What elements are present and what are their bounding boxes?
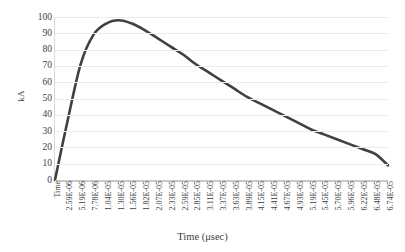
x-axis-title: Time (μsec) xyxy=(0,231,405,242)
gridline xyxy=(55,99,388,100)
x-axis-tick-label: 1.56E-05 xyxy=(129,181,139,229)
y-axis-tick-label: 40 xyxy=(24,110,52,120)
gridline xyxy=(55,50,388,51)
chart-container: kA 1009080706050403020100 Time2.59E-065.… xyxy=(0,0,405,252)
x-axis-tick-label: 4.41E-05 xyxy=(270,181,280,229)
y-axis-tick-label: 30 xyxy=(24,127,52,137)
gridline xyxy=(55,17,388,18)
y-axis-tick-label: 80 xyxy=(24,45,52,55)
gridline xyxy=(55,147,388,148)
x-axis-tick-label: 3.89E-05 xyxy=(245,181,255,229)
gridline xyxy=(55,131,388,132)
x-axis-tick-label: 7.78E-06 xyxy=(91,181,101,229)
y-axis-tick-label: 20 xyxy=(24,143,52,153)
x-axis-tick-label: 3.37E-05 xyxy=(219,181,229,229)
x-axis-tick-label: 5.19E-05 xyxy=(309,181,319,229)
y-axis-tick-label: 60 xyxy=(24,78,52,88)
x-axis-tick-label: 1.30E-05 xyxy=(117,181,127,229)
series-path xyxy=(55,20,388,180)
gridline xyxy=(55,33,388,34)
x-axis-tick-label: 3.11E-05 xyxy=(206,181,216,229)
x-axis-tick-label: 1.04E-05 xyxy=(104,181,114,229)
gridline xyxy=(55,82,388,83)
x-axis-tick-labels: Time2.59E-065.19E-067.78E-061.04E-051.30… xyxy=(0,181,405,229)
x-axis-tick-label: 4.93E-05 xyxy=(296,181,306,229)
plot-area xyxy=(55,17,388,180)
y-axis-tick-label: 90 xyxy=(24,29,52,39)
y-axis-tick-label: 100 xyxy=(24,13,52,23)
x-axis-tick-label: 1.82E-05 xyxy=(142,181,152,229)
x-axis-tick-label: 5.70E-05 xyxy=(334,181,344,229)
x-axis-tick-label: 5.96E-05 xyxy=(347,181,357,229)
y-axis-tick-label: 10 xyxy=(24,159,52,169)
x-axis-tick-label: 2.59E-05 xyxy=(181,181,191,229)
x-axis-tick-label: 2.85E-05 xyxy=(193,181,203,229)
x-axis-tick-label: 4.15E-05 xyxy=(257,181,267,229)
y-axis-tick-label: 70 xyxy=(24,61,52,71)
x-axis-tick-label: 6.74E-05 xyxy=(386,181,396,229)
x-axis-tick-label: 5.19E-06 xyxy=(78,181,88,229)
x-axis-tick-label: Time xyxy=(53,181,63,229)
x-axis-tick-label: 2.33E-05 xyxy=(168,181,178,229)
x-axis-tick-label: 4.67E-05 xyxy=(283,181,293,229)
x-axis-tick-label: 3.63E-05 xyxy=(232,181,242,229)
gridline xyxy=(55,164,388,165)
x-axis-tick-label: 2.07E-05 xyxy=(155,181,165,229)
gridline xyxy=(55,115,388,116)
gridline xyxy=(55,66,388,67)
x-axis-tick-label: 2.59E-06 xyxy=(65,181,75,229)
x-axis-tick-label: 6.48E-05 xyxy=(373,181,383,229)
x-axis-tick-label: 6.22E-05 xyxy=(360,181,370,229)
x-axis-tick-label: 5.45E-05 xyxy=(321,181,331,229)
y-axis-tick-label: 50 xyxy=(24,94,52,104)
